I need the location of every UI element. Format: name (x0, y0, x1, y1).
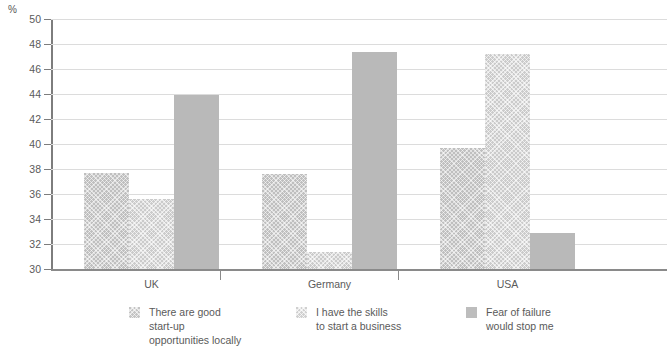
y-axis-tick-label: 50 (29, 13, 41, 25)
legend-item-label: I have the skills to start a business (316, 305, 401, 333)
y-axis-tick (44, 69, 51, 70)
y-axis-tick-label: 44 (29, 88, 41, 100)
bar (485, 54, 530, 269)
legend-item-label: Fear of failure would stop me (486, 305, 554, 333)
y-axis-tick (44, 44, 51, 45)
y-axis-tick-label: 38 (29, 163, 41, 175)
bar (352, 52, 397, 270)
bar (440, 148, 485, 269)
gridline (51, 44, 667, 45)
y-axis-tick-label: 46 (29, 63, 41, 75)
y-axis-tick (44, 269, 51, 270)
bar (174, 95, 219, 269)
y-axis-tick (44, 169, 51, 170)
category-separator-tick (398, 269, 399, 280)
legend-item[interactable]: I have the skills to start a business (296, 305, 401, 333)
legend-color-swatch (129, 307, 140, 318)
y-axis-tick-label: 34 (29, 213, 41, 225)
bar (129, 199, 174, 269)
x-axis-category-label: Germany (308, 278, 351, 290)
y-axis-tick (44, 244, 51, 245)
x-axis-category-label: USA (497, 278, 519, 290)
y-axis-tick-label: 32 (29, 238, 41, 250)
y-axis-tick-label: 36 (29, 188, 41, 200)
bar (84, 173, 129, 269)
chart-legend: There are good start-up opportunities lo… (0, 303, 667, 353)
y-axis-tick (44, 94, 51, 95)
y-axis-tick (44, 144, 51, 145)
legend-item-label: There are good start-up opportunities lo… (149, 305, 241, 347)
bar (307, 252, 352, 270)
legend-item[interactable]: There are good start-up opportunities lo… (129, 305, 241, 347)
legend-color-swatch (466, 307, 477, 318)
y-axis-tick-label: 42 (29, 113, 41, 125)
legend-item[interactable]: Fear of failure would stop me (466, 305, 554, 333)
plot-area (51, 19, 667, 269)
cropped-caption-sliver (330, 0, 667, 7)
bar (262, 174, 307, 269)
bar (530, 233, 575, 269)
y-axis-tick (44, 194, 51, 195)
gridline (51, 19, 667, 20)
bar-chart: % 3032343638404244464850 UKGermanyUSA Th… (0, 0, 667, 353)
y-axis-tick (44, 19, 51, 20)
y-axis-unit-label: % (8, 4, 17, 15)
y-axis-tick-label: 30 (29, 263, 41, 275)
legend-color-swatch (296, 307, 307, 318)
category-separator-tick (220, 269, 221, 280)
y-axis-tick (44, 119, 51, 120)
x-axis-category-label: UK (144, 278, 159, 290)
x-axis-baseline (51, 269, 667, 271)
y-axis-tick-label: 40 (29, 138, 41, 150)
y-axis-tick-label: 48 (29, 38, 41, 50)
y-axis-tick (44, 219, 51, 220)
